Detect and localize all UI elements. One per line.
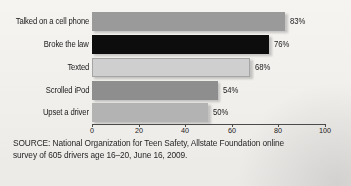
x-axis-tick-label-0: 0 xyxy=(90,126,94,135)
value-label-0: 83% xyxy=(290,17,305,26)
chart-plot-area: Talked on a cell phone Broke the law Tex… xyxy=(0,0,351,134)
value-label-2: 68% xyxy=(255,63,270,72)
category-label-4: Upset a driver xyxy=(43,108,89,117)
x-axis-tick-label-100: 100 xyxy=(319,126,331,135)
category-label-0: Talked on a cell phone xyxy=(16,17,89,26)
x-axis-tick-label-40: 40 xyxy=(181,126,189,135)
x-axis-tick-label-60: 60 xyxy=(228,126,236,135)
bar-scrolled-ipod xyxy=(92,81,218,100)
value-label-4: 50% xyxy=(213,108,228,117)
bar-upset-a-driver xyxy=(92,103,208,122)
source-note: SOURCE: National Organization for Teen S… xyxy=(13,138,331,162)
category-label-3: Scrolled iPod xyxy=(45,86,89,95)
source-note-line-1: SOURCE: National Organization for Teen S… xyxy=(13,138,331,150)
value-label-3: 54% xyxy=(223,86,238,95)
bar-chart-figure: Talked on a cell phone Broke the law Tex… xyxy=(0,0,351,186)
x-axis-tick-label-20: 20 xyxy=(135,126,143,135)
x-axis-tick-label-80: 80 xyxy=(274,126,282,135)
bar-talked-on-a-cell-phone xyxy=(92,12,285,31)
bar-texted xyxy=(92,58,250,77)
category-label-1: Broke the law xyxy=(44,40,89,49)
source-note-line-2: survey of 605 drivers age 16–20, June 16… xyxy=(13,150,331,162)
category-label-2: Texted xyxy=(67,63,89,72)
x-axis-line xyxy=(92,124,325,125)
bar-broke-the-law xyxy=(92,35,269,54)
value-label-1: 76% xyxy=(274,40,289,49)
